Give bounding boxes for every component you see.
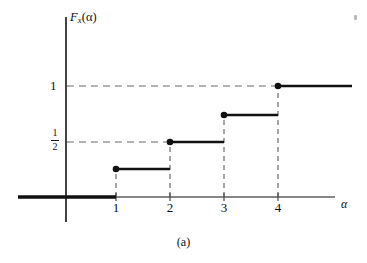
x-tick-label-1: 1 bbox=[109, 201, 123, 214]
jump-dot-x2 bbox=[167, 139, 174, 146]
y-axis-label-main: F bbox=[70, 10, 78, 24]
scan-artifact-speck bbox=[354, 15, 357, 20]
y-axis-label: Fx(α) bbox=[70, 11, 97, 25]
y-axis-label-argument: (α) bbox=[82, 10, 97, 24]
figure-caption: (a) bbox=[0, 236, 367, 248]
x-axis-label: α bbox=[341, 198, 347, 210]
jump-dot-x3 bbox=[221, 112, 228, 119]
jump-dot-x1 bbox=[113, 166, 120, 173]
fraction-numerator: 1 bbox=[49, 128, 61, 139]
cdf-figure: Fx(α) α 1 1 2 1 2 3 4 (a) bbox=[0, 0, 367, 263]
fraction-denominator: 2 bbox=[49, 142, 61, 153]
x-tick-label-3: 3 bbox=[217, 201, 231, 214]
x-tick-label-4: 4 bbox=[271, 201, 285, 214]
jump-dot-x4 bbox=[275, 83, 282, 90]
x-tick-label-2: 2 bbox=[163, 201, 177, 214]
y-tick-label-half: 1 2 bbox=[49, 128, 61, 152]
y-tick-label-one: 1 bbox=[50, 79, 57, 92]
